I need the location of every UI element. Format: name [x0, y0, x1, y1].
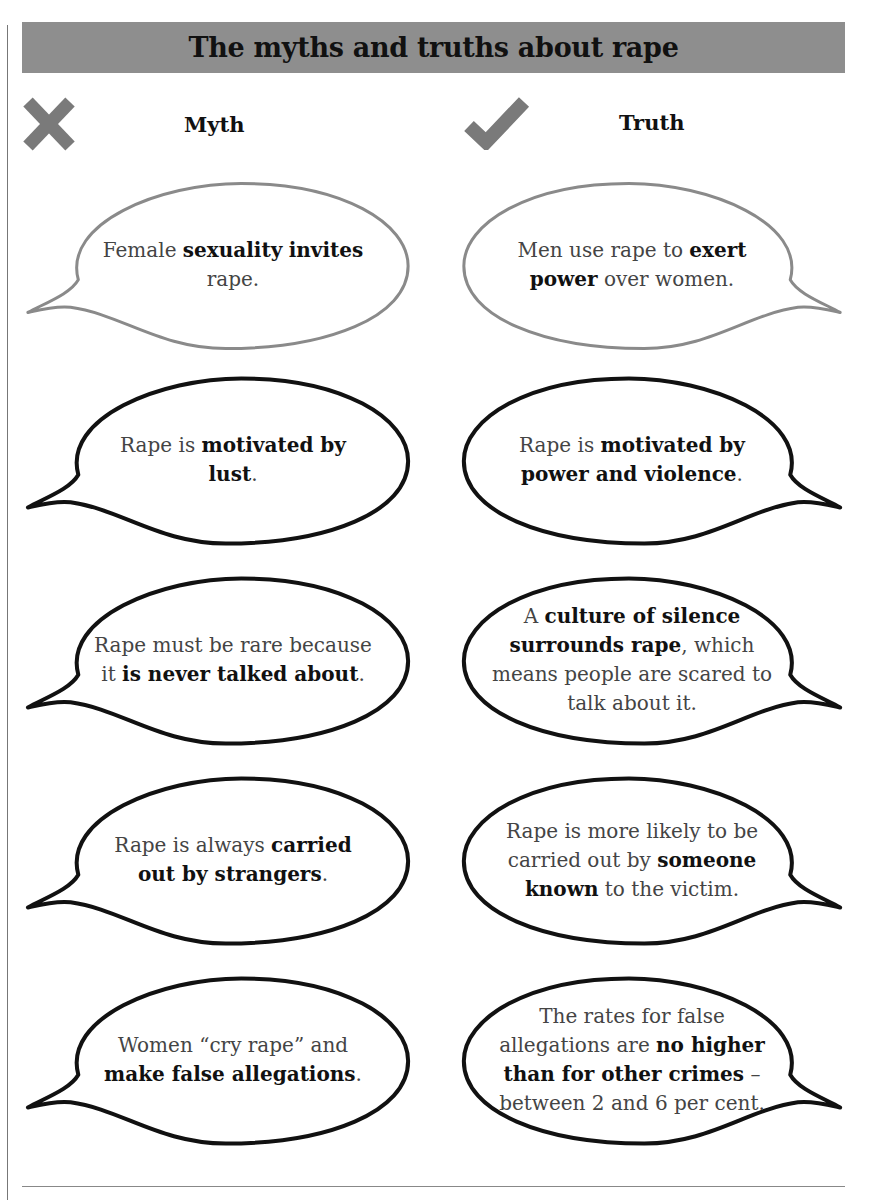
page-title: The myths and truths about rape [188, 32, 678, 63]
truth-statement: A culture of silence surrounds rape, whi… [490, 587, 774, 733]
statement-text: Men use rape to [518, 238, 690, 262]
statement-text: to the victim. [598, 877, 739, 901]
statement-text: . [322, 862, 328, 886]
statement-text: A [524, 604, 545, 628]
statement-text: rape. [207, 267, 259, 291]
statement-text: over women. [598, 267, 735, 291]
emphasis-text: motivated by lust [202, 433, 346, 486]
truth-bubble: Rape is more likely to be carried out by… [460, 775, 844, 947]
myth-bubble: Rape must be rare because it is never ta… [24, 575, 412, 747]
statement-text: . [251, 462, 257, 486]
emphasis-text: sexuality [183, 238, 282, 262]
title-banner: The myths and truths about rape [22, 22, 845, 73]
truth-bubble: A culture of silence surrounds rape, whi… [460, 575, 844, 747]
truth-statement: Rape is motivated by power and violence. [490, 387, 774, 533]
truth-bubble: The rates for false allegations are no h… [460, 975, 844, 1147]
truth-column-label: Truth [619, 110, 684, 135]
myth-statement: Female sexuality invites rape. [94, 192, 372, 338]
bottom-rule [22, 1186, 845, 1187]
statement-text: Rape is [120, 433, 201, 457]
truth-bubble: Rape is motivated by power and violence. [460, 375, 844, 547]
statement-text: . [358, 662, 364, 686]
emphasis-text: invites [289, 238, 364, 262]
statement-text: Women “cry rape” and [118, 1033, 348, 1057]
page-margin-rule [7, 25, 8, 1200]
truth-statement: Rape is more likely to be carried out by… [490, 787, 774, 933]
cross-icon [22, 97, 76, 151]
checkmark-icon [464, 94, 530, 150]
myth-bubble: Rape is motivated by lust. [24, 375, 412, 547]
myth-statement: Rape is motivated by lust. [94, 387, 372, 533]
statement-text: Rape is always [114, 833, 271, 857]
statement-text: Rape is [519, 433, 600, 457]
myth-column-label: Myth [184, 112, 244, 137]
truth-statement: The rates for false allegations are no h… [490, 987, 774, 1133]
statement-text: Female [103, 238, 183, 262]
emphasis-text: make false allegations [104, 1062, 356, 1086]
truth-bubble: Men use rape to exert power over women. [460, 180, 844, 352]
myth-statement: Rape is always carried out by strangers. [94, 787, 372, 933]
myth-bubble: Female sexuality invites rape. [24, 180, 412, 352]
myth-bubble: Women “cry rape” and make false allegati… [24, 975, 412, 1147]
truth-statement: Men use rape to exert power over women. [490, 192, 774, 338]
myth-statement: Rape must be rare because it is never ta… [94, 587, 372, 733]
myth-bubble: Rape is always carried out by strangers. [24, 775, 412, 947]
statement-text: . [737, 462, 743, 486]
statement-text: . [356, 1062, 362, 1086]
myth-statement: Women “cry rape” and make false allegati… [94, 987, 372, 1133]
emphasis-text: is never talked about [122, 662, 358, 686]
